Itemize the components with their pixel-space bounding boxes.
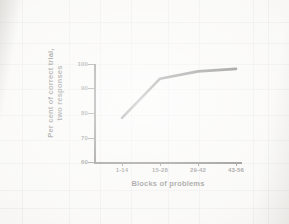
y-axis-title: Per cent of correct trial, two responses xyxy=(46,33,64,153)
y-axis-title-line2: two responses xyxy=(55,65,64,120)
x-axis-title: Blocks of problems xyxy=(94,179,242,188)
y-axis-title-line1: Per cent of correct trial, xyxy=(46,48,55,137)
figure-canvas: 100 90 80 70 60 1-14 15-28 29-42 43-56 xyxy=(0,0,289,224)
data-series-line xyxy=(0,0,289,224)
chart-plot-area: 100 90 80 70 60 1-14 15-28 29-42 43-56 xyxy=(0,0,289,224)
